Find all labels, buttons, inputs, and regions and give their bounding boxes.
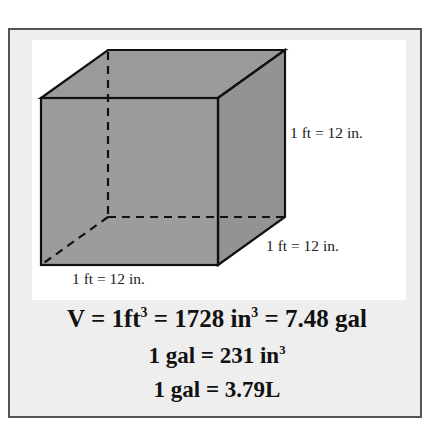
height-label: 1 ft = 12 in. <box>290 124 363 142</box>
depth-label: 1 ft = 12 in. <box>266 237 339 255</box>
width-label: 1 ft = 12 in. <box>72 270 145 288</box>
volume-equation: V = 1ft3 = 1728 in3 = 7.48 gal <box>12 305 422 333</box>
gallon-liter-equation: 1 gal = 3.79L <box>12 377 422 403</box>
gallon-cubic-inch-equation: 1 gal = 231 in3 <box>12 343 422 369</box>
cube-front-face <box>41 98 218 265</box>
